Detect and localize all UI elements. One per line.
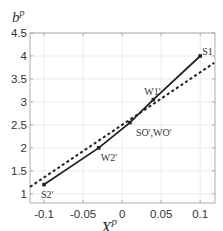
y-tick-label: 3.5 bbox=[11, 73, 27, 85]
x-axis-title-sub: 1'ini bbox=[111, 229, 127, 231]
point-label: W2' bbox=[101, 152, 117, 163]
x-tick-label: 0 bbox=[119, 208, 125, 220]
data-point-marker bbox=[97, 146, 101, 150]
x-tick-label: 0.1 bbox=[192, 208, 208, 220]
point-label: S1 bbox=[202, 46, 213, 57]
x-tick-label: -0.05 bbox=[70, 208, 96, 220]
y-tick-label: 4.5 bbox=[11, 27, 27, 39]
chart-canvas: -0.1-0.0500.050.1 11.522.533.544.5 S2'W2… bbox=[0, 0, 223, 231]
y-tick-label: 2.5 bbox=[11, 119, 27, 131]
point-label: SO',WO' bbox=[136, 127, 172, 138]
x-tick-label: -0.1 bbox=[34, 208, 54, 220]
y-axis-title: bp bbox=[12, 7, 25, 25]
y-tick-label: 1 bbox=[21, 188, 27, 200]
data-point-marker bbox=[42, 183, 46, 187]
x-axis: -0.1-0.0500.050.1 bbox=[34, 33, 208, 220]
y-axis: 11.522.533.544.5 bbox=[11, 27, 215, 200]
x-tick-label: 0.05 bbox=[150, 208, 172, 220]
y-tick-label: 4 bbox=[21, 50, 28, 62]
y-axis-title-sup: p bbox=[19, 7, 25, 18]
data-point-marker bbox=[152, 98, 156, 102]
point-label: S2' bbox=[41, 189, 54, 200]
grid-lines bbox=[30, 33, 215, 203]
y-tick-label: 2 bbox=[21, 142, 27, 154]
y-tick-label: 3 bbox=[21, 96, 27, 108]
x-axis-title-sup: p bbox=[110, 215, 117, 227]
point-label: W1' bbox=[144, 86, 160, 97]
y-tick-label: 1.5 bbox=[11, 165, 27, 177]
